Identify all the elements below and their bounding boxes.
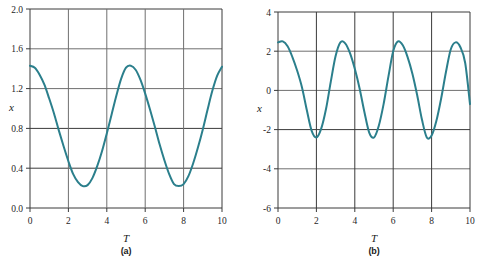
y-tick-label-a-1: 1.6 <box>11 44 23 54</box>
y-tick-label-b-3: -2 <box>263 125 271 135</box>
y-ticks-b <box>274 12 278 208</box>
grid-lines-a <box>30 9 222 208</box>
x-ticks-a <box>30 208 222 212</box>
x-axis-label-a: T <box>111 232 141 244</box>
chart-panel-b: 4 2 0 -2 -4 -6 0 2 4 6 8 10 x T (b) <box>241 0 482 259</box>
x-tick-label-a-5: 10 <box>217 216 227 226</box>
y-tick-label-b-0: 4 <box>266 8 271 18</box>
y-tick-label-a-2: 1.2 <box>11 84 23 94</box>
x-tick-label-a-4: 8 <box>181 216 186 226</box>
panel-caption-b: (b) <box>354 246 394 256</box>
panel-caption-a: (a) <box>106 246 146 256</box>
figure-container: 2.0 1.6 1.2 0.8 0.4 0.0 0 2 4 6 8 10 x T… <box>0 0 483 259</box>
y-tick-label-a-0: 2.0 <box>11 5 23 15</box>
chart-panel-a: 2.0 1.6 1.2 0.8 0.4 0.0 0 2 4 6 8 10 x T… <box>0 0 241 259</box>
y-tick-label-a-4: 0.4 <box>11 164 23 174</box>
y-tick-label-b-1: 2 <box>266 47 271 57</box>
x-axis-label-b: T <box>359 232 389 244</box>
y-tick-label-b-2: 0 <box>266 86 271 96</box>
y-tick-label-b-4: -4 <box>263 164 271 174</box>
x-tick-label-b-1: 2 <box>314 216 319 226</box>
x-tick-label-b-4: 8 <box>429 216 434 226</box>
y-tick-label-a-3: 0.8 <box>11 124 23 134</box>
y-axis-label-b: x <box>257 102 262 114</box>
x-ticks-b <box>278 208 470 212</box>
plot-area-a: 2.0 1.6 1.2 0.8 0.4 0.0 0 2 4 6 8 10 <box>0 0 241 259</box>
x-tick-label-b-3: 6 <box>391 216 396 226</box>
y-tick-label-b-5: -6 <box>263 204 271 214</box>
x-tick-label-a-3: 6 <box>143 216 148 226</box>
x-tick-label-b-5: 10 <box>465 216 475 226</box>
plot-area-b: 4 2 0 -2 -4 -6 0 2 4 6 8 10 <box>241 0 483 259</box>
x-tick-label-b-0: 0 <box>276 216 281 226</box>
x-tick-label-b-2: 4 <box>352 216 357 226</box>
x-tick-label-a-2: 4 <box>104 216 109 226</box>
y-tick-label-a-5: 0.0 <box>11 204 23 214</box>
x-tick-label-a-0: 0 <box>28 216 33 226</box>
y-ticks-a <box>26 9 30 208</box>
x-tick-label-a-1: 2 <box>66 216 71 226</box>
y-axis-label-a: x <box>9 101 14 113</box>
